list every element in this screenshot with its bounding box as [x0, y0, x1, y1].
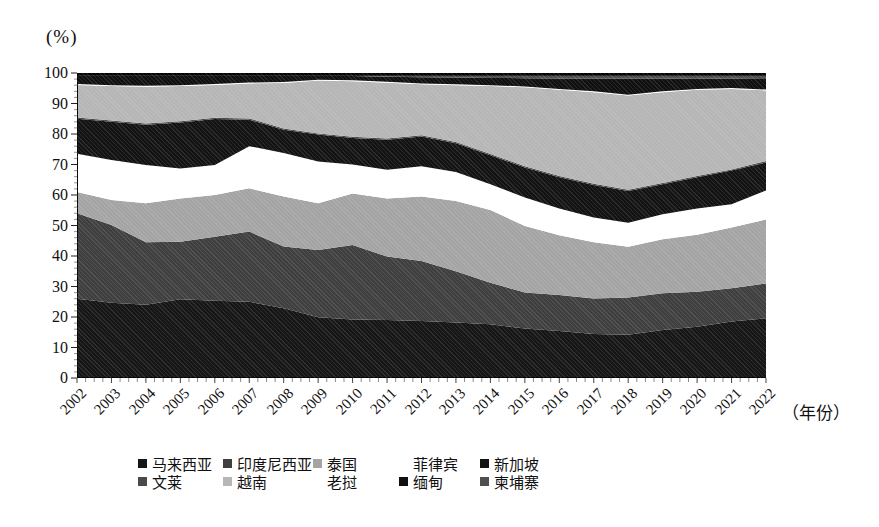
y-tick-label: 70 [26, 156, 68, 174]
legend-item-brunei: 文莱 [138, 472, 182, 490]
legend-marker-indonesia [223, 459, 232, 468]
y-tick-label: 0 [26, 369, 68, 387]
y-tick-label: 10 [26, 339, 68, 357]
legend-item-philippines: 菲律宾 [399, 454, 458, 472]
legend-marker-vietnam [223, 477, 232, 486]
legend-marker-singapore [480, 459, 489, 468]
legend-label-philippines: 菲律宾 [413, 457, 458, 473]
legend-item-myanmar: 缅甸 [399, 472, 443, 490]
legend-label-cambodia: 柬埔寨 [494, 475, 539, 491]
legend-item-thailand: 泰国 [313, 454, 357, 472]
legend-marker-thailand [313, 459, 322, 468]
percent-axis-label: (%) [46, 26, 77, 48]
legend-label-vietnam: 越南 [237, 475, 267, 491]
legend-label-singapore: 新加坡 [494, 457, 539, 473]
y-tick-label: 90 [26, 95, 68, 113]
legend-marker-myanmar [399, 477, 408, 486]
legend-item-cambodia: 柬埔寨 [480, 472, 539, 490]
legend-label-thailand: 泰国 [327, 457, 357, 473]
legend-item-malaysia: 马来西亚 [138, 454, 212, 472]
legend-label-myanmar: 缅甸 [413, 475, 443, 491]
legend-item-singapore: 新加坡 [480, 454, 539, 472]
legend-marker-malaysia [138, 459, 147, 468]
legend-item-indonesia: 印度尼西亚 [223, 454, 312, 472]
legend-label-malaysia: 马来西亚 [152, 457, 212, 473]
legend-label-indonesia: 印度尼西亚 [237, 457, 312, 473]
legend-item-vietnam: 越南 [223, 472, 267, 490]
y-tick-label: 80 [26, 125, 68, 143]
year-axis-label: （年份） [782, 399, 850, 424]
legend-marker-laos [313, 477, 322, 486]
legend-marker-brunei [138, 477, 147, 486]
legend-marker-philippines [399, 459, 408, 468]
y-tick-label: 20 [26, 308, 68, 326]
stacked-area-chart [77, 73, 766, 378]
legend-marker-cambodia [480, 477, 489, 486]
y-tick-label: 60 [26, 186, 68, 204]
legend-item-laos: 老挝 [313, 472, 357, 490]
legend-label-laos: 老挝 [327, 475, 357, 491]
y-tick-label: 100 [26, 64, 68, 82]
plot-area [77, 73, 766, 378]
legend-label-brunei: 文莱 [152, 475, 182, 491]
y-tick-label: 40 [26, 247, 68, 265]
y-tick-label: 50 [26, 217, 68, 235]
y-tick-label: 30 [26, 278, 68, 296]
